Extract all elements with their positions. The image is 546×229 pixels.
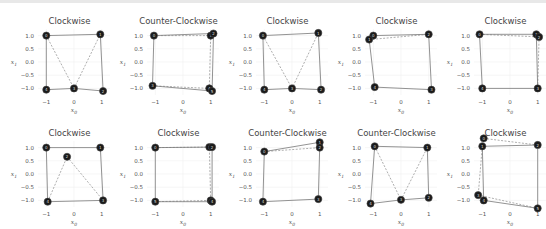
dashed-path xyxy=(480,34,540,88)
subplot-1: Clockwise1.00.50.0−0.5−1.0−101x0x101234 xyxy=(0,4,109,116)
y-axis-label: x1 xyxy=(120,170,126,179)
x-axis-label: x0 xyxy=(289,106,295,115)
subplot-4: Clockwise1.00.50.0−0.5−1.0−101x0x101234 xyxy=(327,4,436,116)
node-label: 2 xyxy=(538,35,541,40)
subplot-canvas: 1.00.50.0−0.5−1.0−101x0x1012345 xyxy=(109,116,218,228)
y-axis-label: x1 xyxy=(447,58,453,67)
x-axis-label: x0 xyxy=(398,106,404,115)
y-tick-label: 1.0 xyxy=(25,33,34,39)
x-tick-label: 0 xyxy=(290,211,294,217)
solid-path xyxy=(155,147,212,202)
y-tick-label: 0.0 xyxy=(134,171,143,177)
subplot-5: Clockwise1.00.50.0−0.5−1.0−101x0x101234 xyxy=(436,4,545,116)
subplot-canvas: 1.00.50.0−0.5−1.0−101x0x101234 xyxy=(327,4,436,116)
x-axis-label: x0 xyxy=(71,218,77,227)
node-label: 3 xyxy=(102,198,105,203)
node-label: 1 xyxy=(481,144,484,149)
node-label: 2 xyxy=(212,31,215,36)
node-label: 1 xyxy=(317,31,320,36)
subplot-canvas: 1.00.50.0−0.5−1.0−101x0x101234 xyxy=(218,116,327,228)
solid-path xyxy=(46,34,103,91)
x-axis-label: x0 xyxy=(398,218,404,227)
y-tick-label: 1.0 xyxy=(243,145,252,151)
node-label: 2 xyxy=(320,87,323,92)
x-tick-label: −1 xyxy=(42,99,50,105)
x-axis-label: x0 xyxy=(507,106,513,115)
x-tick-label: −1 xyxy=(369,211,377,217)
y-axis-label: x1 xyxy=(229,170,235,179)
y-tick-label: 0.5 xyxy=(25,46,34,52)
y-tick-label: 0.0 xyxy=(243,59,252,65)
solid-path xyxy=(371,146,429,203)
subplot-canvas: 1.00.50.0−0.5−1.0−101x0x101234 xyxy=(0,4,109,116)
subplot-7: Clockwise1.00.50.0−0.5−1.0−101x0x1012345 xyxy=(109,116,218,228)
node-label: 1 xyxy=(99,145,102,150)
x-tick-label: −1 xyxy=(260,99,268,105)
x-tick-label: 0 xyxy=(72,99,76,105)
node-label: 0 xyxy=(372,33,375,38)
subplot-canvas: 1.00.50.0−0.5−1.0−101x0x1012345 xyxy=(109,4,218,116)
subplot-canvas: 1.00.50.0−0.5−1.0−101x0x101234 xyxy=(0,116,109,228)
y-tick-label: 0.0 xyxy=(243,171,252,177)
y-tick-label: 0.5 xyxy=(461,46,470,52)
y-tick-label: 0.5 xyxy=(243,46,252,52)
x-tick-label: −1 xyxy=(260,211,268,217)
y-tick-label: −1.0 xyxy=(457,85,471,91)
node-label: 1 xyxy=(99,32,102,37)
y-tick-label: −0.5 xyxy=(457,72,471,78)
y-tick-label: 1.0 xyxy=(461,145,470,151)
node-label: 4 xyxy=(262,199,265,204)
x-tick-label: 1 xyxy=(427,211,431,217)
y-tick-label: −0.5 xyxy=(130,184,144,190)
node-label: 1 xyxy=(368,37,371,42)
subplot-3: Clockwise1.00.50.0−0.5−1.0−101x0x101234 xyxy=(218,4,327,116)
y-tick-label: 0.0 xyxy=(461,171,470,177)
y-tick-label: 0.0 xyxy=(25,59,34,65)
node-label: 3 xyxy=(291,86,294,91)
node-label: 5 xyxy=(154,199,157,204)
top-border xyxy=(0,0,546,3)
y-tick-label: −1.0 xyxy=(348,197,362,203)
x-tick-label: 1 xyxy=(536,99,540,105)
node-label: 4 xyxy=(211,199,214,204)
node-label: 2 xyxy=(102,89,105,94)
y-tick-label: −1.0 xyxy=(21,197,35,203)
y-tick-label: 1.0 xyxy=(461,33,470,39)
node-label: 4 xyxy=(263,87,266,92)
node-label: 2 xyxy=(66,154,69,159)
y-tick-label: 0.5 xyxy=(134,158,143,164)
x-tick-label: −1 xyxy=(151,99,159,105)
x-tick-label: 1 xyxy=(427,99,431,105)
y-axis-label: x1 xyxy=(11,170,17,179)
subplot-6: Clockwise1.00.50.0−0.5−1.0−101x0x101234 xyxy=(0,116,109,228)
subplot-10: Clockwise1.00.50.0−0.5−1.0−101x0x1012345 xyxy=(436,116,545,228)
y-tick-label: 0.5 xyxy=(243,158,252,164)
subplot-8: Counter-Clockwise1.00.50.0−0.5−1.0−101x0… xyxy=(218,116,327,228)
node-label: 0 xyxy=(154,145,157,150)
x-axis-label: x0 xyxy=(289,218,295,227)
x-tick-label: −1 xyxy=(42,211,50,217)
y-tick-label: 1.0 xyxy=(134,33,143,39)
x-tick-label: 0 xyxy=(399,211,403,217)
y-axis-label: x1 xyxy=(229,58,235,67)
y-tick-label: −0.5 xyxy=(348,184,362,190)
x-axis-label: x0 xyxy=(180,106,186,115)
y-tick-label: −0.5 xyxy=(348,72,362,78)
y-tick-label: −1.0 xyxy=(457,197,471,203)
x-tick-label: 1 xyxy=(100,99,104,105)
y-tick-label: 0.5 xyxy=(25,158,34,164)
x-tick-label: 0 xyxy=(290,99,294,105)
node-label: 3 xyxy=(477,193,480,198)
node-label: 3 xyxy=(317,197,320,202)
y-tick-label: 0.0 xyxy=(352,59,361,65)
solid-path xyxy=(46,148,103,202)
subplot-canvas: 1.00.50.0−0.5−1.0−101x0x101234 xyxy=(218,4,327,116)
y-tick-label: −1.0 xyxy=(21,85,35,91)
subplot-9: Counter-Clockwise1.00.50.0−0.5−1.0−101x0… xyxy=(327,116,436,228)
x-tick-label: −1 xyxy=(478,99,486,105)
y-tick-label: −0.5 xyxy=(21,184,35,190)
y-axis-label: x1 xyxy=(447,170,453,179)
node-label: 3 xyxy=(73,86,76,91)
y-tick-label: 0.5 xyxy=(461,158,470,164)
subplot-2: Counter-Clockwise1.00.50.0−0.5−1.0−101x0… xyxy=(109,4,218,116)
